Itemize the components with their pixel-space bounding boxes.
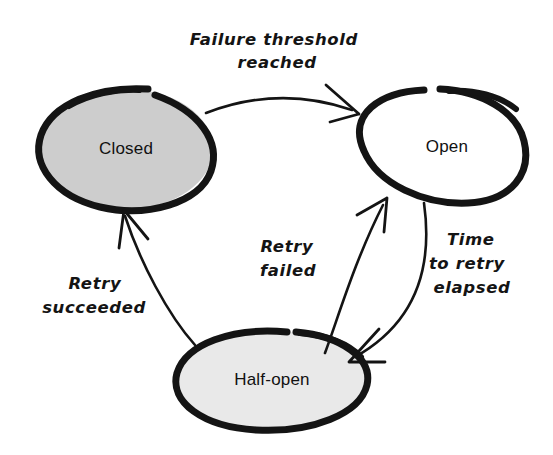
transition-half-open-to-open-line [325,205,383,353]
state-half-open-label: Half-open [234,370,310,389]
edge-label-line: Retry [68,274,121,293]
transition-open-to-half-open-line [355,203,426,357]
edge-label-line: Retry [260,237,313,256]
edge-label-failure-threshold-reached: Failure threshold reached [190,30,365,72]
state-node-half-open[interactable]: Half-open [176,331,368,430]
state-node-closed[interactable]: Closed [39,89,214,211]
edge-label-retry-failed: Retry failed [260,237,320,280]
edge-label-line: to retry [429,254,506,273]
svg-text:Retry failed: Retry failed [260,237,320,280]
diagram-canvas: Closed Open Half-open [0,0,553,455]
edge-label-line: Time [447,230,495,249]
transition-open-to-half-open[interactable] [349,203,426,362]
edge-label-retry-succeeded: Retry succeeded [42,274,146,317]
svg-text:Failure threshold reac: Failure threshold reached [190,30,365,72]
edge-label-line: Failure threshold [190,30,358,49]
edge-label-line: reached [237,53,316,72]
edge-label-time-to-retry-elapsed: Time to retry elapsed [429,230,511,297]
transition-closed-to-open[interactable] [206,85,359,122]
svg-text:Time to retry: Time to retry elapsed [429,230,511,297]
state-open-label: Open [426,137,468,156]
edge-label-line: failed [260,261,316,280]
edge-label-line: elapsed [434,278,511,297]
circuit-breaker-state-diagram: Closed Open Half-open [0,0,553,455]
state-node-open[interactable]: Open [359,89,526,205]
state-closed-label: Closed [99,139,153,158]
transition-closed-to-open-line [206,98,352,113]
transition-half-open-to-closed-line [125,216,195,345]
svg-text:Retry succeeded: Retry succeeded [42,274,146,317]
transition-open-to-half-open-arrowhead [349,329,385,362]
transition-half-open-to-closed[interactable] [119,210,195,345]
edge-label-line: succeeded [42,298,146,317]
